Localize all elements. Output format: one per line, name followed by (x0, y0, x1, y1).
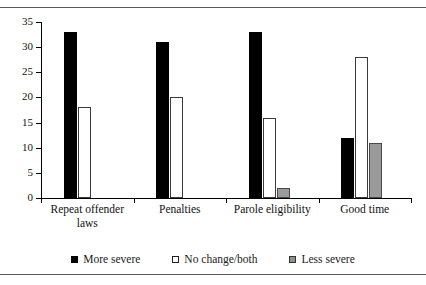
y-axis-tick-label: 30 (7, 41, 33, 52)
y-axis-tick-label: 15 (7, 117, 33, 128)
legend-item-more: More severe (71, 252, 140, 266)
x-axis-category-label: Good time (307, 203, 424, 217)
y-axis-tick (36, 22, 41, 23)
bar-repeat-offender-laws-no-change-both (78, 107, 91, 198)
y-axis-tick (36, 148, 41, 149)
legend-swatch-icon (71, 256, 78, 263)
bar-good-time-more-severe (341, 138, 354, 198)
figure-page: 05101520253035 Repeat offenderlawsPenalt… (0, 0, 426, 285)
legend-item-nochange: No change/both (172, 252, 257, 266)
legend-label: Less severe (301, 252, 354, 266)
y-axis-line (41, 22, 42, 199)
bar-chart: 05101520253035 Repeat offenderlawsPenalt… (0, 0, 426, 285)
x-axis-label-line: Good time (307, 203, 424, 217)
bar-good-time-no-change-both (355, 57, 368, 198)
y-axis-tick (36, 173, 41, 174)
chart-legend: More severeNo change/bothLess severe (0, 252, 426, 266)
bar-penalties-more-severe (156, 42, 169, 198)
y-axis-tick-label: 20 (7, 91, 33, 102)
y-axis-tick-label: 0 (7, 192, 33, 203)
y-axis-tick-label: 10 (7, 142, 33, 153)
bar-parole-eligibility-no-change-both (263, 118, 276, 198)
y-axis-tick (36, 97, 41, 98)
bar-penalties-no-change-both (170, 97, 183, 198)
y-axis-tick (36, 72, 41, 73)
bar-parole-eligibility-less-severe (277, 188, 290, 198)
bar-parole-eligibility-more-severe (249, 32, 262, 198)
legend-swatch-icon (172, 256, 179, 263)
y-axis-tick (36, 47, 41, 48)
bar-good-time-less-severe (369, 143, 382, 198)
y-axis-tick-label: 35 (7, 16, 33, 27)
legend-swatch-icon (289, 256, 296, 263)
legend-label: No change/both (184, 252, 257, 266)
legend-label: More severe (83, 252, 140, 266)
y-axis-tick-label: 5 (7, 167, 33, 178)
y-axis-tick-label: 25 (7, 66, 33, 77)
y-axis-tick (36, 123, 41, 124)
bar-repeat-offender-laws-more-severe (64, 32, 77, 198)
x-axis-label-line: laws (29, 217, 146, 231)
legend-item-less: Less severe (289, 252, 354, 266)
